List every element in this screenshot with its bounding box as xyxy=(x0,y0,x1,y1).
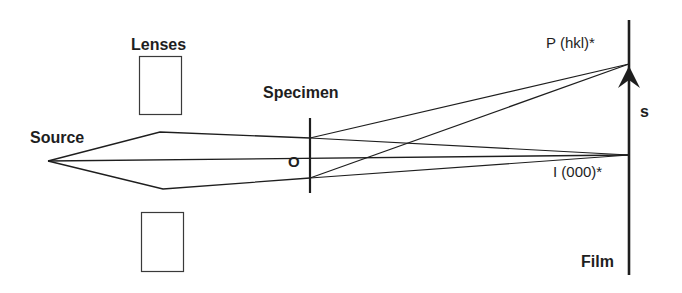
vector-s-label: s xyxy=(640,103,649,121)
specimen-label: Specimen xyxy=(263,84,339,102)
diffraction-point-label: P (hkl)* xyxy=(546,34,595,51)
lenses-label: Lenses xyxy=(131,36,186,54)
incident-rays xyxy=(48,132,629,189)
source-label: Source xyxy=(30,129,84,147)
direct-beam-point-label: I (000)* xyxy=(553,163,602,180)
lower-lens xyxy=(142,213,184,272)
film-label: Film xyxy=(581,253,614,271)
upper-lens xyxy=(140,57,182,115)
origin-label: O xyxy=(288,153,300,170)
diffracted-rays xyxy=(310,64,629,178)
